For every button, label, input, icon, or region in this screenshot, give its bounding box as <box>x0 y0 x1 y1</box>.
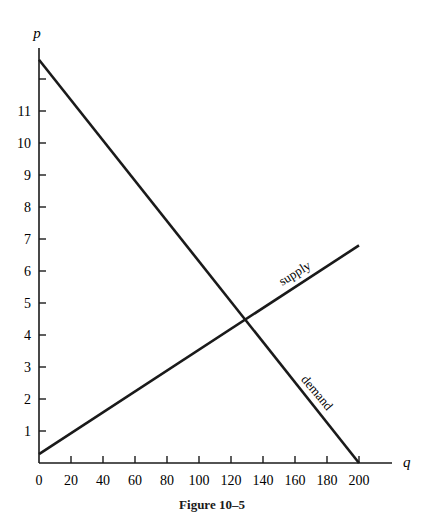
x-tick-label: 200 <box>349 473 370 488</box>
y-tick-label: 9 <box>24 168 31 183</box>
y-tick-label: 5 <box>24 296 31 311</box>
x-axis-label: q <box>403 454 411 470</box>
supply-demand-chart: pq12345678910110204060801001201401601802… <box>0 0 424 531</box>
x-tick-label: 140 <box>253 473 274 488</box>
y-tick-label: 4 <box>24 328 31 343</box>
figure-caption: Figure 10–5 <box>0 497 424 513</box>
y-tick-label: 1 <box>24 424 31 439</box>
x-tick-label: 0 <box>36 473 43 488</box>
supply-line <box>39 245 359 454</box>
y-tick-label: 11 <box>18 104 31 119</box>
y-tick-label: 6 <box>24 264 31 279</box>
x-tick-label: 80 <box>160 473 174 488</box>
demand-line <box>39 60 359 463</box>
supply-label: supply <box>276 257 314 288</box>
x-tick-label: 60 <box>128 473 142 488</box>
y-tick-label: 8 <box>24 200 31 215</box>
x-tick-label: 160 <box>285 473 306 488</box>
y-tick-label: 7 <box>24 232 31 247</box>
x-tick-label: 120 <box>221 473 242 488</box>
y-axis-label: p <box>32 25 41 41</box>
x-tick-label: 180 <box>317 473 338 488</box>
x-tick-label: 100 <box>189 473 210 488</box>
x-tick-label: 20 <box>64 473 78 488</box>
y-tick-label: 2 <box>24 392 31 407</box>
y-tick-label: 10 <box>17 136 31 151</box>
y-tick-label: 3 <box>24 360 31 375</box>
x-tick-label: 40 <box>96 473 110 488</box>
